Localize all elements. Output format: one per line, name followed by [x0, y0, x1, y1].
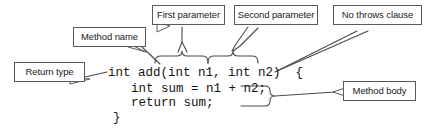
brace-first-parameter [155, 51, 208, 63]
code-line-sum: int sum = n1 + n2; [131, 82, 266, 96]
callout-method-name[interactable]: Method name [74, 28, 147, 53]
leader-return-type [85, 72, 107, 77]
callout-method-body[interactable]: Method body [333, 82, 416, 101]
callout-label-method-name: Method name [81, 31, 138, 42]
callout-first-parameter[interactable]: First parameter [153, 6, 225, 33]
method-anatomy-diagram: Return type Method name First parameter … [0, 0, 439, 130]
callout-label-first-parameter: First parameter [157, 9, 220, 20]
leader-first-parameter [178, 27, 182, 52]
leader-method-name [142, 47, 160, 64]
leader-first-parameter-b [182, 42, 187, 52]
diagram-canvas: Return type Method name First parameter … [0, 0, 439, 130]
leader-method-body [275, 92, 335, 96]
code-line-signature: int add(int n1, int n2) { [108, 66, 303, 80]
callout-label-no-throws-clause: No throws clause [342, 9, 413, 20]
callout-label-return-type: Return type [25, 66, 73, 77]
brace-second-parameter [208, 51, 258, 63]
leader-second-parameter [232, 27, 248, 51]
code-line-close-brace: } [113, 111, 121, 125]
leader-no-throws-b [277, 31, 368, 71]
code-line-return: return sum; [131, 96, 214, 110]
callout-label-second-parameter: Second parameter [238, 9, 315, 20]
callout-second-parameter[interactable]: Second parameter [235, 6, 318, 25]
callout-label-method-body: Method body [353, 85, 407, 96]
callout-no-throws-clause[interactable]: No throws clause [334, 6, 422, 25]
callout-return-type[interactable]: Return type [15, 63, 91, 85]
